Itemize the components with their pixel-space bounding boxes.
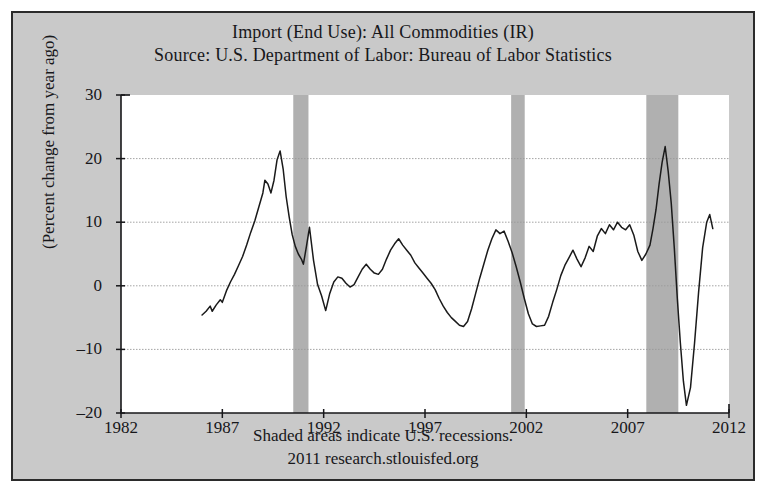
recession-bands xyxy=(293,95,678,413)
chart-title: Import (End Use): All Commodities (IR) xyxy=(13,21,753,44)
y-tick-label: 20 xyxy=(85,149,102,169)
title-block: Import (End Use): All Commodities (IR) S… xyxy=(13,21,753,67)
y-tick-label: –10 xyxy=(77,339,103,359)
y-tick-label: –20 xyxy=(77,403,103,423)
y-axis-label: (Percent change from year ago) xyxy=(39,35,59,249)
recession-band xyxy=(293,95,308,413)
y-tick-label: 30 xyxy=(85,85,102,105)
footer-block: Shaded areas indicate U.S. recessions. 2… xyxy=(13,424,753,470)
axis-spine xyxy=(121,95,729,413)
y-tick-label: 0 xyxy=(94,276,103,296)
footnote-recessions: Shaded areas indicate U.S. recessions. xyxy=(13,424,753,447)
chart-canvas xyxy=(110,85,729,433)
y-tick-label: 10 xyxy=(85,212,102,232)
chart-subtitle: Source: U.S. Department of Labor: Bureau… xyxy=(13,44,753,67)
data-series-line xyxy=(202,147,713,406)
footnote-source: 2011 research.stlouisfed.org xyxy=(13,447,753,470)
plot-wrapper: 3020100–10–20 19821987199219972002200720… xyxy=(110,85,729,413)
axis-ticks xyxy=(116,95,729,418)
recession-band xyxy=(646,95,678,413)
gridlines xyxy=(121,159,729,350)
series-line xyxy=(202,147,713,406)
chart-figure: Import (End Use): All Commodities (IR) S… xyxy=(11,11,755,481)
axis-lines xyxy=(121,95,729,413)
